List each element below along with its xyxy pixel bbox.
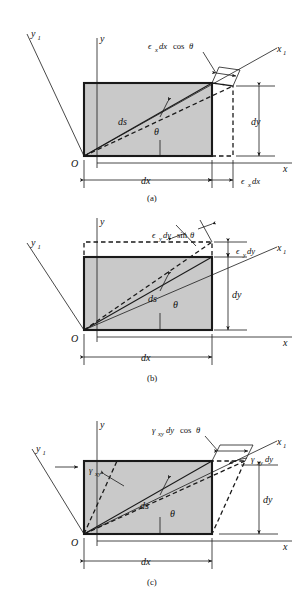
y1-axis-b bbox=[27, 243, 84, 330]
axis-label-x1-b: x 1 bbox=[276, 242, 286, 255]
svg-text:dx: dx bbox=[159, 41, 167, 51]
axis-label-y-b: y bbox=[99, 216, 105, 227]
panel-a: y x O y 1 x 1 ds θ ϵ x dx cos θ ϵ x dx d… bbox=[0, 0, 307, 205]
svg-text:dy: dy bbox=[265, 454, 273, 464]
angle-label-b: θ bbox=[173, 299, 178, 310]
diagonal-label-a: ds bbox=[118, 116, 127, 127]
svg-text:x: x bbox=[154, 46, 158, 53]
svg-text:y: y bbox=[30, 237, 36, 248]
dx-label-b: dx bbox=[141, 352, 151, 363]
y1-axis-a bbox=[27, 34, 84, 156]
dx-label-a: dx bbox=[141, 175, 151, 186]
dx-label-c: dx bbox=[141, 556, 151, 567]
svg-text:x: x bbox=[276, 242, 282, 253]
origin-label-a: O bbox=[71, 158, 78, 169]
angle-label-c: θ bbox=[170, 508, 175, 519]
svg-text:dy: dy bbox=[166, 425, 174, 435]
svg-text:θ: θ bbox=[190, 230, 195, 240]
angle-label-a: θ bbox=[154, 126, 159, 137]
panel-c: y x O y 1 x 1 ds θ γ xy γ xy dy cos θ γ … bbox=[0, 403, 307, 602]
axis-label-x1-c: x 1 bbox=[276, 436, 286, 449]
svg-text:x: x bbox=[276, 43, 282, 54]
svg-text:y: y bbox=[35, 443, 41, 454]
svg-text:sin: sin bbox=[177, 230, 188, 240]
svg-text:ϵ: ϵ bbox=[236, 246, 240, 256]
svg-text:x: x bbox=[247, 181, 251, 188]
svg-text:y: y bbox=[158, 235, 162, 242]
svg-text:dy: dy bbox=[247, 246, 255, 256]
svg-text:1: 1 bbox=[283, 49, 286, 56]
svg-text:1: 1 bbox=[283, 442, 286, 449]
svg-text:cos: cos bbox=[180, 425, 192, 435]
svg-text:dx: dx bbox=[252, 176, 260, 186]
svg-text:cos: cos bbox=[173, 41, 185, 51]
svg-text:1: 1 bbox=[38, 34, 41, 41]
axis-label-y1-b: y 1 bbox=[30, 237, 41, 250]
panel-caption-b: (b) bbox=[147, 373, 157, 383]
svg-text:θ: θ bbox=[196, 425, 201, 435]
svg-text:ϵ: ϵ bbox=[241, 176, 245, 186]
axis-label-x1-a: x 1 bbox=[276, 43, 286, 56]
svg-text:x: x bbox=[276, 436, 282, 447]
axis-label-x-a: x bbox=[282, 163, 288, 174]
top-dim-arrow-right-b bbox=[198, 224, 212, 229]
svg-text:1: 1 bbox=[283, 248, 286, 255]
svg-text:xy: xy bbox=[157, 430, 164, 437]
bottom-dimension-label-a: ϵ x dx bbox=[241, 176, 260, 188]
elongation-box-top-a bbox=[219, 67, 240, 70]
elongation-box-c bbox=[212, 445, 253, 461]
top-dimension-label-b: ϵ y dy sin θ bbox=[152, 230, 195, 242]
svg-text:ϵ: ϵ bbox=[152, 230, 156, 240]
top-dim-leader-a bbox=[203, 52, 216, 73]
panel-caption-a: (a) bbox=[147, 193, 157, 203]
top-dim-arrow-a bbox=[216, 73, 236, 76]
axis-label-x-b: x bbox=[282, 337, 288, 348]
dy-label-a: dy bbox=[251, 116, 261, 127]
axis-label-y-a: y bbox=[99, 33, 105, 44]
deformed-top-a bbox=[212, 83, 233, 86]
svg-text:dy: dy bbox=[163, 230, 171, 240]
y1-axis-c bbox=[32, 449, 84, 534]
origin-label-b: O bbox=[71, 333, 78, 344]
figure-root: y x O y 1 x 1 ds θ ϵ x dx cos θ ϵ x dx d… bbox=[0, 0, 307, 602]
panel-b: y x O y 1 x 1 ds θ ϵ y dy sin θ ϵ y dy d… bbox=[0, 205, 307, 403]
svg-text:ϵ: ϵ bbox=[148, 41, 152, 51]
svg-text:xy: xy bbox=[94, 470, 101, 477]
top-dimension-label-c: γ xy dy cos θ bbox=[152, 425, 201, 437]
axis-label-x-c: x bbox=[282, 541, 288, 552]
dy-label-b: dy bbox=[232, 289, 242, 300]
svg-text:γ: γ bbox=[152, 425, 156, 435]
svg-text:θ: θ bbox=[189, 41, 194, 51]
panel-caption-c: (c) bbox=[147, 577, 157, 587]
top-dim-leader-c bbox=[205, 436, 218, 451]
svg-text:y: y bbox=[30, 28, 36, 39]
svg-text:1: 1 bbox=[43, 449, 46, 456]
side-dimension-label-c: γ xy dy bbox=[251, 454, 273, 466]
dy-label-c: dy bbox=[263, 494, 273, 505]
side-dimension-label-b: ϵ y dy bbox=[236, 246, 255, 258]
origin-label-c: O bbox=[71, 537, 78, 548]
top-dimension-label-a: ϵ x dx cos θ bbox=[148, 41, 194, 53]
svg-text:xy: xy bbox=[256, 459, 263, 466]
diagonal-label-b: ds bbox=[148, 293, 157, 304]
callout-right-b bbox=[200, 220, 212, 242]
axis-label-y1-c: y 1 bbox=[35, 443, 46, 456]
svg-text:y: y bbox=[242, 251, 246, 258]
svg-text:γ: γ bbox=[251, 454, 255, 464]
axis-label-y-c: y bbox=[99, 419, 105, 430]
diagonal-label-c: ds bbox=[140, 500, 149, 511]
axis-label-y1-a: y 1 bbox=[30, 28, 41, 41]
svg-text:1: 1 bbox=[38, 243, 41, 250]
